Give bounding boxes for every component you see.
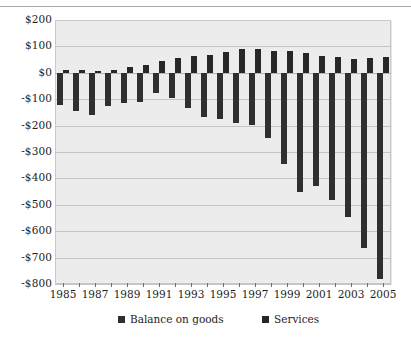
bar-services-1985 bbox=[63, 70, 68, 73]
x-tick-2000 bbox=[303, 283, 304, 287]
bar-balance-on-goods-2004 bbox=[361, 73, 366, 249]
bar-services-1991 bbox=[159, 61, 164, 73]
bar-services-2000 bbox=[303, 53, 308, 73]
bar-balance-on-goods-2002 bbox=[329, 73, 334, 201]
y-tick-label--500: -$500 bbox=[2, 198, 52, 210]
x-tick-2005 bbox=[383, 283, 384, 287]
bar-services-1996 bbox=[239, 49, 244, 73]
y-tick-label-0: $0 bbox=[2, 66, 52, 78]
top-divider bbox=[0, 6, 411, 7]
bar-balance-on-goods-1995 bbox=[217, 73, 222, 119]
x-tick-label-1995: 1995 bbox=[210, 288, 237, 300]
bar-balance-on-goods-2005 bbox=[377, 73, 382, 279]
bar-services-2003 bbox=[351, 59, 356, 73]
bar-balance-on-goods-1987 bbox=[89, 73, 94, 115]
y-tick-label--200: -$200 bbox=[2, 119, 52, 131]
x-tick-label-1989: 1989 bbox=[114, 288, 141, 300]
x-tick-1989 bbox=[127, 283, 128, 287]
bar-services-2002 bbox=[335, 57, 340, 73]
bar-balance-on-goods-2000 bbox=[297, 73, 302, 192]
x-tick-label-2001: 2001 bbox=[306, 288, 333, 300]
x-tick-1991 bbox=[159, 283, 160, 287]
bar-balance-on-goods-2003 bbox=[345, 73, 350, 217]
x-tick-1998 bbox=[271, 283, 272, 287]
x-tick-label-2005: 2005 bbox=[370, 288, 397, 300]
bar-balance-on-goods-1992 bbox=[169, 73, 174, 99]
bar-services-1995 bbox=[223, 52, 228, 73]
bar-series-container bbox=[55, 20, 391, 284]
x-tick-label-1999: 1999 bbox=[274, 288, 301, 300]
x-tick-1987 bbox=[95, 283, 96, 287]
x-tick-1985 bbox=[63, 283, 64, 287]
x-tick-label-1997: 1997 bbox=[242, 288, 269, 300]
bar-balance-on-goods-1993 bbox=[185, 73, 190, 108]
x-tick-1986 bbox=[79, 283, 80, 287]
bar-services-1987 bbox=[95, 71, 100, 73]
y-tick-label-200: $200 bbox=[2, 13, 52, 25]
bar-balance-on-goods-1989 bbox=[121, 73, 126, 104]
chart-legend: Balance on goodsServices bbox=[0, 313, 411, 331]
bar-services-1999 bbox=[287, 51, 292, 73]
bar-balance-on-goods-1991 bbox=[153, 73, 158, 93]
legend-item-goods[interactable]: Balance on goods bbox=[118, 313, 224, 325]
x-tick-2004 bbox=[367, 283, 368, 287]
x-tick-1990 bbox=[143, 283, 144, 287]
bar-balance-on-goods-1988 bbox=[105, 73, 110, 107]
legend-label: Balance on goods bbox=[130, 313, 224, 325]
x-tick-1988 bbox=[111, 283, 112, 287]
legend-label: Services bbox=[274, 313, 319, 325]
y-tick-label-100: $100 bbox=[2, 39, 52, 51]
bar-balance-on-goods-1990 bbox=[137, 73, 142, 102]
bar-services-2001 bbox=[319, 56, 324, 73]
bar-services-1997 bbox=[255, 49, 260, 73]
bar-services-1990 bbox=[143, 65, 148, 73]
bar-services-1988 bbox=[111, 70, 116, 73]
bar-balance-on-goods-1986 bbox=[73, 73, 78, 111]
x-tick-2001 bbox=[319, 283, 320, 287]
legend-swatch-services bbox=[262, 316, 269, 323]
y-axis-labels: $200$100$0-$100-$200-$300-$400-$500-$600… bbox=[0, 20, 52, 284]
chart-figure: $200$100$0-$100-$200-$300-$400-$500-$600… bbox=[0, 0, 411, 341]
x-tick-label-1993: 1993 bbox=[178, 288, 205, 300]
bar-balance-on-goods-1996 bbox=[233, 73, 238, 123]
y-tick-label--600: -$600 bbox=[2, 224, 52, 236]
x-tick-label-1991: 1991 bbox=[146, 288, 173, 300]
bar-balance-on-goods-1998 bbox=[265, 73, 270, 138]
x-tick-1994 bbox=[207, 283, 208, 287]
x-tick-1999 bbox=[287, 283, 288, 287]
legend-item-services[interactable]: Services bbox=[262, 313, 319, 325]
bar-services-1993 bbox=[191, 56, 196, 72]
y-tick-label--300: -$300 bbox=[2, 145, 52, 157]
bar-balance-on-goods-1994 bbox=[201, 73, 206, 117]
plot-area bbox=[55, 20, 391, 284]
x-tick-1992 bbox=[175, 283, 176, 287]
x-axis-labels: 1985198719891991199319951997199920012003… bbox=[0, 288, 411, 308]
bar-services-2004 bbox=[367, 58, 372, 73]
x-tick-1993 bbox=[191, 283, 192, 287]
x-tick-label-1985: 1985 bbox=[50, 288, 77, 300]
bar-services-1998 bbox=[271, 51, 276, 73]
bar-services-2005 bbox=[383, 57, 388, 72]
bar-balance-on-goods-1999 bbox=[281, 73, 286, 164]
y-tick-label--700: -$700 bbox=[2, 251, 52, 263]
bar-services-1986 bbox=[79, 70, 84, 73]
bar-services-1989 bbox=[127, 67, 132, 73]
bar-services-1992 bbox=[175, 58, 180, 73]
bar-balance-on-goods-1985 bbox=[57, 73, 62, 105]
bar-balance-on-goods-1997 bbox=[249, 73, 254, 125]
x-tick-1995 bbox=[223, 283, 224, 287]
bar-balance-on-goods-2001 bbox=[313, 73, 318, 186]
legend-swatch-goods bbox=[118, 316, 125, 323]
x-tick-label-2003: 2003 bbox=[338, 288, 365, 300]
x-tick-2002 bbox=[335, 283, 336, 287]
x-tick-1996 bbox=[239, 283, 240, 287]
y-tick-label--400: -$400 bbox=[2, 171, 52, 183]
x-tick-1997 bbox=[255, 283, 256, 287]
y-tick-label--100: -$100 bbox=[2, 92, 52, 104]
bar-services-1994 bbox=[207, 55, 212, 73]
x-tick-label-1987: 1987 bbox=[82, 288, 109, 300]
x-tick-2003 bbox=[351, 283, 352, 287]
